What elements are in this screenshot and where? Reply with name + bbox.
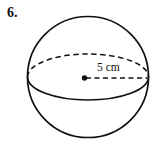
equator-front-arc-solid	[28, 77, 149, 100]
figure-page: 6. 5 cm	[0, 0, 155, 147]
radius-measurement-label: 5 cm	[97, 61, 120, 73]
sphere-center-dot	[82, 75, 87, 80]
equator-back-arc-dashed	[28, 54, 149, 77]
sphere-outline-circle	[28, 17, 149, 138]
sphere-diagram: 5 cm	[0, 0, 155, 147]
